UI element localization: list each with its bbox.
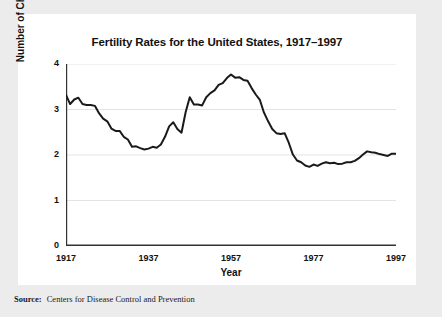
y-tick-label: 3	[39, 104, 59, 114]
source-text: Centers for Disease Control and Preventi…	[47, 294, 195, 304]
plot-area: 01234 19171937195719771997	[66, 64, 396, 246]
figure-card: Fertility Rates for the United States, 1…	[18, 14, 416, 285]
x-tick-label: 1977	[294, 253, 334, 263]
y-tick-label: 0	[39, 240, 59, 250]
gridlines	[66, 64, 396, 201]
y-tick-label: 2	[39, 149, 59, 159]
x-axis-label: Year	[66, 267, 396, 278]
chart-title: Fertility Rates for the United States, 1…	[18, 36, 416, 48]
line-chart-svg	[66, 64, 396, 246]
y-tick-label: 1	[39, 195, 59, 205]
x-tick-label: 1937	[129, 253, 169, 263]
source-label: Source:	[14, 294, 42, 304]
x-tick-label: 1917	[46, 253, 86, 263]
fertility-rate-series	[66, 74, 396, 166]
y-tick-label: 4	[39, 58, 59, 68]
screenshot-root: Fertility Rates for the United States, 1…	[0, 0, 442, 317]
x-tick-label: 1957	[211, 253, 251, 263]
y-axis-label: Number of Children per Woman	[15, 0, 26, 72]
x-tick-label: 1997	[376, 253, 416, 263]
source-line: Source:Centers for Disease Control and P…	[14, 294, 195, 304]
